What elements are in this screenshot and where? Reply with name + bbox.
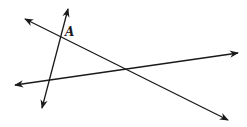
line-steep <box>42 9 68 108</box>
line-ascending <box>15 53 238 85</box>
diagram-canvas: A <box>0 0 247 127</box>
point-label-a: A <box>64 25 74 39</box>
